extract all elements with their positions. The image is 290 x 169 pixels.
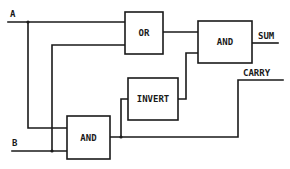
or-gate-label: OR: [125, 12, 163, 54]
invert-gate-label: INVERT: [128, 78, 178, 120]
half-adder-diagram: A B SUM CARRY OR AND INVERT AND: [0, 0, 290, 169]
and-sum-gate-label: AND: [198, 21, 252, 63]
wire-a-to-and-carry: [28, 22, 67, 128]
wire-to-invert: [121, 99, 128, 137]
input-b-label: B: [12, 139, 17, 148]
input-a-label: A: [10, 10, 15, 19]
junction-carry: [119, 135, 122, 138]
junction-b: [50, 149, 53, 152]
output-carry-label: CARRY: [243, 69, 270, 78]
wire-invert-to-and-sum: [178, 53, 198, 99]
and-carry-gate-label: AND: [67, 116, 110, 159]
output-sum-label: SUM: [258, 32, 274, 41]
junction-a: [26, 20, 29, 23]
